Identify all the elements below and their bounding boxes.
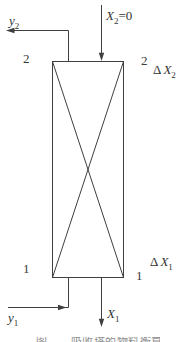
- section-mark-bottom-right: 1: [136, 269, 143, 282]
- section-mark-top-right: 2: [141, 54, 148, 67]
- label-liquid-out-bottom-sub: 1: [115, 314, 120, 324]
- gas-outlet-line: [10, 31, 69, 62]
- absorption-column-diagram: y2 X2=0 y1 X1 2 2 1 1 ΔX2 ΔX1 图 吸收塔的物料衡算: [0, 0, 187, 342]
- label-delta-x2: ΔX2: [153, 63, 176, 80]
- figure-caption-cropped: 图 吸收塔的物料衡算: [36, 337, 160, 342]
- liquid-inlet-arrowhead-icon: [99, 53, 104, 61]
- label-liquid-in-top: X2=0: [106, 9, 132, 26]
- section-mark-bottom-left: 1: [23, 262, 30, 275]
- label-gas-in-bottom: y1: [8, 311, 18, 328]
- label-delta-x1-sub: 1: [168, 262, 173, 272]
- label-delta-x1-prefix: Δ: [150, 254, 158, 269]
- label-liquid-in-top-suffix: =0: [118, 8, 132, 23]
- gas-inlet-line: [8, 278, 69, 308]
- section-mark-top-left: 2: [23, 52, 30, 65]
- label-gas-out-top: y2: [9, 14, 19, 31]
- label-gas-in-bottom-sub: 1: [14, 318, 19, 328]
- gas-inlet-arrowhead-icon: [58, 305, 67, 311]
- label-liquid-out-bottom: X1: [107, 307, 119, 324]
- liquid-outlet-arrowhead-icon: [99, 319, 104, 327]
- label-delta-x1: ΔX1: [150, 255, 173, 272]
- label-delta-x2-prefix: Δ: [153, 62, 161, 77]
- label-gas-out-top-sub: 2: [15, 21, 20, 31]
- label-liquid-in-top-base: X: [106, 8, 114, 23]
- label-delta-x2-sub: 2: [171, 70, 176, 80]
- label-liquid-out-bottom-base: X: [107, 306, 115, 321]
